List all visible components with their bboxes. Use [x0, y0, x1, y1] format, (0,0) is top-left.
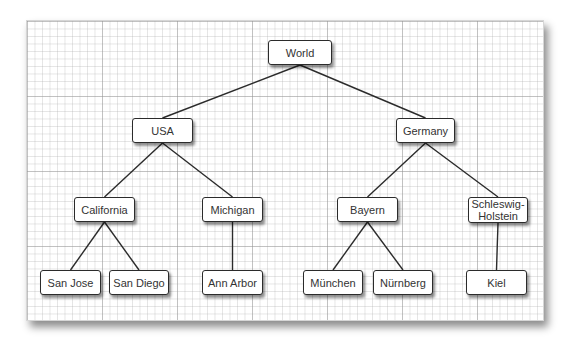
node-san-jose: San Jose [40, 270, 101, 295]
node-san-diego: San Diego [109, 270, 169, 295]
node-munchen: München [303, 270, 363, 295]
node-usa: USA [132, 118, 193, 143]
node-world: World [268, 40, 332, 65]
node-kiel: Kiel [466, 270, 527, 295]
node-nurnberg: Nürnberg [373, 270, 433, 295]
node-michigan: Michigan [202, 197, 263, 222]
node-ann-arbor: Ann Arbor [202, 270, 263, 295]
node-california: California [74, 197, 135, 222]
node-schleswig-holstein: Schleswig- Holstein [468, 197, 528, 223]
node-bayern: Bayern [337, 197, 398, 222]
node-germany: Germany [396, 118, 455, 143]
